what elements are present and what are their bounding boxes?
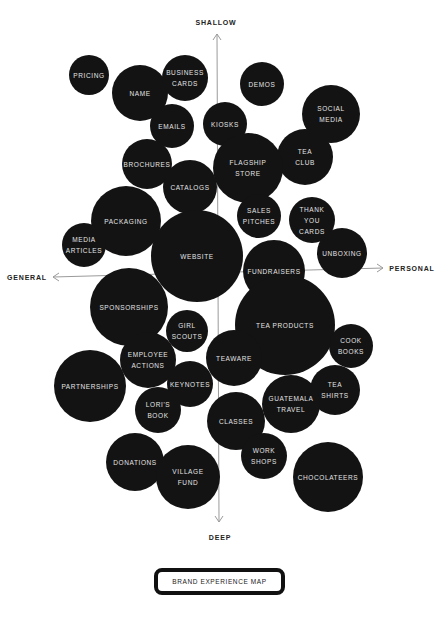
bubble-label: MEDIA ARTICLES: [64, 234, 104, 256]
bubble-label: SPONSORSHIPS: [97, 302, 160, 313]
bubble-item: TEA CLUB: [277, 129, 333, 185]
bubble-label: UNBOXING: [320, 248, 363, 259]
bubble-label: EMPLOYEE ACTIONS: [126, 349, 171, 371]
bubble-label: COOK BOOKS: [336, 335, 366, 357]
bubble-item: SALES PITCHES: [237, 194, 281, 238]
axis-label-shallow: SHALLOW: [196, 19, 237, 26]
bubble-item: GUATEMALA TRAVEL: [262, 375, 320, 433]
axis-label-deep: DEEP: [209, 534, 231, 541]
bubble-item: MEDIA ARTICLES: [62, 223, 106, 267]
bubble-label: DONATIONS: [111, 457, 159, 468]
axis-label-general: GENERAL: [7, 274, 47, 281]
bubble-label: PACKAGING: [102, 216, 150, 227]
bubble-item: WEBSITE: [151, 210, 243, 302]
bubble-label: CHOCOLATEERS: [296, 472, 361, 483]
bubble-label: CATALOGS: [168, 182, 211, 193]
bubble-label: KEYNOTES: [168, 379, 212, 390]
axis-label-personal: PERSONAL: [389, 265, 434, 272]
map-title-box: BRAND EXPERIENCE MAP: [154, 568, 285, 595]
bubble-item: VILLAGE FUND: [156, 445, 220, 509]
bubble-label: GIRL SCOUTS: [170, 320, 205, 342]
bubble-label: SALES PITCHES: [241, 205, 277, 227]
bubble-label: PRICING: [71, 70, 106, 81]
bubble-label: SOCIAL MEDIA: [315, 103, 346, 125]
bubble-item: DEMOS: [240, 62, 284, 106]
map-title: BRAND EXPERIENCE MAP: [172, 578, 266, 585]
bubble-label: EMAILS: [156, 121, 187, 132]
bubble-item: TEAWARE: [206, 330, 262, 386]
bubble-label: KIOSKS: [209, 119, 241, 130]
bubble-item: BUSINESS CARDS: [162, 55, 208, 101]
bubble-label: NAME: [127, 88, 152, 99]
bubble-label: CLASSES: [217, 416, 255, 427]
bubble-label: BROCHURES: [122, 159, 173, 170]
bubble-label: TEA SHIRTS: [319, 379, 350, 401]
bubble-item: CATALOGS: [163, 160, 217, 214]
bubble-label: GUATEMALA TRAVEL: [266, 393, 315, 415]
bubble-item: LORI'S BOOK: [135, 387, 181, 433]
bubble-label: TEAWARE: [214, 353, 254, 364]
bubble-label: VILLAGE FUND: [170, 466, 205, 488]
bubble-item: FLAGSHIP STORE: [213, 133, 283, 203]
bubble-label: TEA PRODUCTS: [254, 320, 316, 331]
bubble-item: PARTNERSHIPS: [54, 350, 126, 422]
bubble-item: PRICING: [69, 55, 109, 95]
bubble-item: WORK SHOPS: [241, 433, 287, 479]
bubble-label: WEBSITE: [178, 251, 215, 262]
bubble-item: CHOCOLATEERS: [293, 442, 363, 512]
bubble-label: WORK SHOPS: [249, 445, 279, 467]
bubble-item: DONATIONS: [106, 433, 164, 491]
bubble-label: FLAGSHIP STORE: [228, 157, 269, 179]
bubble-label: PARTNERSHIPS: [59, 381, 120, 392]
bubble-label: TEA CLUB: [293, 146, 317, 168]
bubble-label: THANK YOU CARDS: [297, 204, 327, 237]
bubble-item: UNBOXING: [317, 228, 367, 278]
bubble-label: DEMOS: [247, 79, 278, 90]
bubble-item: COOK BOOKS: [329, 324, 373, 368]
bubble-label: LORI'S BOOK: [144, 399, 172, 421]
bubble-label: BUSINESS CARDS: [164, 67, 206, 89]
